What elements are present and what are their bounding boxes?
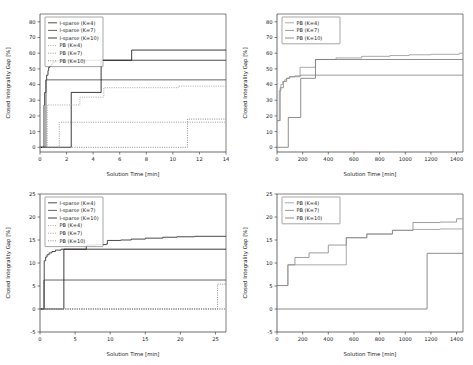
x-tick-label: 400	[323, 336, 333, 342]
legend-label: PB (K=10)	[297, 35, 323, 41]
x-tick-label: 20	[177, 336, 184, 342]
y-tick-label: 50	[266, 66, 273, 72]
y-tick-label: 5	[269, 283, 272, 289]
legend-label: PB (K=7)	[60, 50, 83, 56]
series-line-l-sparse-k-7	[40, 280, 226, 309]
series-line-pb-k-4	[277, 53, 463, 120]
series-group	[40, 236, 226, 309]
legend-label: PB (K=4)	[60, 222, 83, 228]
y-tick-label: 25	[29, 191, 36, 197]
y-tick-label: 20	[266, 113, 273, 119]
legend-label: l-sparse (K=10)	[60, 215, 99, 222]
y-axis-title: Closed Integrality Gap [%]	[5, 47, 12, 118]
legend-label: l-sparse (K=7)	[60, 207, 96, 214]
x-axis-title: Solution Time [min]	[107, 351, 160, 357]
y-tick-label: 15	[29, 237, 36, 243]
x-tick-label: 15	[142, 336, 149, 342]
y-tick-label: 60	[29, 50, 36, 56]
x-tick-label: 25	[212, 336, 219, 342]
y-tick-label: 80	[266, 19, 273, 25]
legend-label: PB (K=7)	[60, 230, 83, 236]
y-tick-label: 0	[32, 144, 35, 150]
x-tick-label: 800	[375, 156, 385, 162]
x-tick-label: 200	[298, 156, 308, 162]
legend-label: PB (K=10)	[297, 215, 323, 221]
series-line-l-sparse-k-4	[40, 236, 226, 309]
figure-canvas: 0246810121401020304050607080Solution Tim…	[0, 0, 473, 365]
series-line-pb-k-10	[40, 119, 226, 147]
series-line-pb-k-7	[40, 122, 226, 147]
series-group	[277, 53, 463, 147]
x-tick-label: 400	[323, 156, 333, 162]
x-tick-label: 0	[275, 156, 278, 162]
x-tick-label: 1200	[424, 336, 437, 342]
y-tick-label: 30	[29, 97, 36, 103]
series-line-pb-k-4	[40, 86, 226, 147]
series-line-pb-k-7	[277, 75, 463, 120]
x-tick-label: 2	[65, 156, 68, 162]
series-group	[277, 219, 463, 309]
y-tick-label: 40	[266, 81, 273, 87]
legend-label: PB (K=4)	[297, 20, 320, 26]
x-tick-label: 1000	[399, 336, 412, 342]
legend-label: l-sparse (K=10)	[60, 35, 99, 42]
y-tick-label: 70	[29, 34, 36, 40]
legend-label: l-sparse (K=4)	[60, 200, 96, 207]
y-tick-label: 0	[269, 306, 272, 312]
panel-bottom-right: 0200400600800100012001400-50510152025Sol…	[237, 184, 473, 362]
x-tick-label: 1400	[450, 336, 463, 342]
y-tick-label: 80	[29, 19, 36, 25]
series-line-l-sparse-k-7	[40, 80, 226, 147]
x-tick-label: 8	[145, 156, 148, 162]
panel-top-right: 0200400600800100012001400010203040506070…	[237, 4, 473, 182]
x-tick-label: 800	[375, 336, 385, 342]
x-tick-label: 0	[275, 336, 278, 342]
y-tick-label: 50	[29, 66, 36, 72]
y-tick-label: 60	[266, 50, 273, 56]
y-tick-label: 5	[32, 283, 35, 289]
y-tick-label: -5	[267, 329, 272, 335]
legend-label: l-sparse (K=7)	[60, 27, 96, 34]
y-tick-label: 10	[266, 129, 273, 135]
panel-top-left: 0246810121401020304050607080Solution Tim…	[0, 4, 236, 182]
legend-label: PB (K=4)	[60, 42, 83, 48]
x-tick-label: 1400	[450, 156, 463, 162]
legend-label: PB (K=10)	[60, 238, 86, 244]
x-tick-label: 0	[38, 156, 41, 162]
series-line-pb-k-10	[277, 253, 463, 309]
y-tick-label: 10	[266, 260, 273, 266]
x-tick-label: 10	[170, 156, 177, 162]
y-tick-label: 30	[266, 97, 273, 103]
y-axis-title: Closed Integrality Gap [%]	[242, 227, 249, 298]
y-tick-label: 25	[266, 191, 273, 197]
x-tick-label: 10	[107, 336, 114, 342]
legend-label: l-sparse (K=4)	[60, 20, 96, 27]
x-tick-label: 600	[349, 336, 359, 342]
x-tick-label: 14	[223, 156, 230, 162]
series-line-pb-k-7	[277, 219, 463, 286]
x-tick-label: 5	[73, 336, 76, 342]
legend-label: PB (K=7)	[297, 27, 320, 33]
legend-label: PB (K=4)	[297, 200, 320, 206]
y-tick-label: 0	[32, 306, 35, 312]
y-tick-label: 40	[29, 81, 36, 87]
x-tick-label: 1200	[424, 156, 437, 162]
series-line-l-sparse-k-4	[40, 60, 226, 147]
x-axis-title: Solution Time [min]	[344, 171, 397, 177]
x-axis-title: Solution Time [min]	[344, 351, 397, 357]
series-line-l-sparse-k-10	[40, 249, 226, 309]
y-tick-label: 0	[269, 144, 272, 150]
x-axis-title: Solution Time [min]	[107, 171, 160, 177]
series-line-pb-k-10	[277, 59, 463, 147]
x-tick-label: 1000	[399, 156, 412, 162]
y-tick-label: 10	[29, 260, 36, 266]
y-tick-label: 70	[266, 34, 273, 40]
x-tick-label: 200	[298, 336, 308, 342]
y-tick-label: 15	[266, 237, 273, 243]
y-axis-title: Closed Integrality Gap [%]	[5, 227, 12, 298]
y-tick-label: 20	[266, 214, 273, 220]
y-tick-label: 20	[29, 214, 36, 220]
y-tick-label: 20	[29, 113, 36, 119]
x-tick-label: 6	[118, 156, 121, 162]
y-tick-label: -5	[30, 329, 35, 335]
